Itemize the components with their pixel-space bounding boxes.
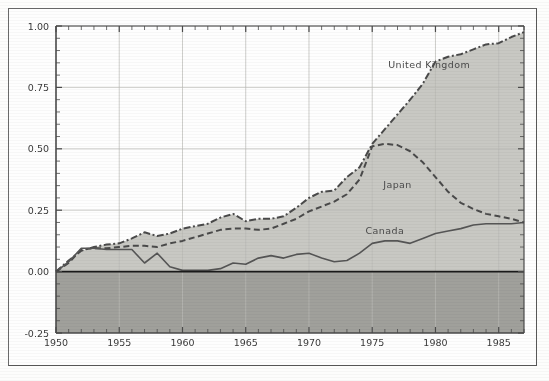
series-label-japan: Japan <box>382 179 412 190</box>
series-label-canada: Canada <box>366 225 405 236</box>
area-chart: 1.000.750.500.250.00-0.25195019551960196… <box>9 9 535 364</box>
x-tick-label: 1970 <box>297 337 321 348</box>
x-tick-label: 1960 <box>170 337 194 348</box>
chart-frame: 1.000.750.500.250.00-0.25195019551960196… <box>8 8 537 366</box>
x-tick-label: 1965 <box>234 337 258 348</box>
y-tick-label: 0.25 <box>28 205 49 216</box>
x-tick-label: 1985 <box>487 337 511 348</box>
scanned-page: 1.000.750.500.250.00-0.25195019551960196… <box>0 0 549 381</box>
x-tick-label: 1955 <box>107 337 131 348</box>
y-tick-label: 0.50 <box>28 143 49 154</box>
y-tick-label: 0.00 <box>28 266 49 277</box>
y-tick-label: 0.75 <box>28 82 49 93</box>
y-tick-label: 1.00 <box>28 21 49 32</box>
series-label-united-kingdom: United Kingdom <box>388 59 470 70</box>
x-tick-label: 1950 <box>44 337 68 348</box>
x-tick-label: 1980 <box>423 337 447 348</box>
x-tick-label: 1975 <box>360 337 384 348</box>
negative-band-fill <box>56 272 524 333</box>
